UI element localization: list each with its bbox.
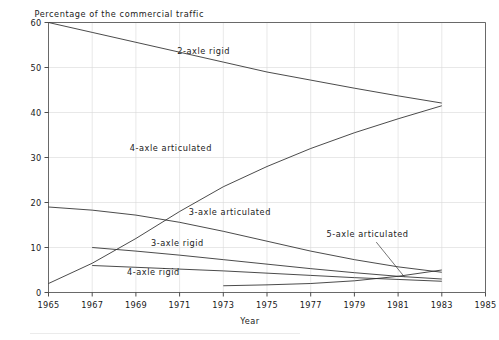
tickmarks-layer	[45, 23, 486, 297]
x-tick-label: 1967	[81, 300, 103, 310]
y-tick-label: 20	[30, 198, 41, 208]
series-line-2-axle-rigid	[49, 23, 442, 104]
axis-titles-layer: Percentage of the commercial trafficYear	[35, 9, 260, 326]
x-tick-label: 1979	[343, 300, 365, 310]
chart-page: 0102030405060196519671969197119731975197…	[0, 0, 499, 340]
series-label-4-axle-articulated: 4-axle articulated	[130, 143, 212, 153]
x-tick-label: 1975	[256, 300, 278, 310]
x-tick-label: 1971	[169, 300, 191, 310]
series-label-3-axle-rigid: 3-axle rigid	[151, 238, 204, 248]
y-tick-label: 10	[30, 243, 41, 253]
series-label-5-axle-articulated: 5-axle articulated	[326, 229, 408, 239]
y-tick-label: 40	[30, 108, 41, 118]
x-tick-label: 1973	[212, 300, 234, 310]
x-tick-label: 1977	[300, 300, 322, 310]
y-tick-label: 60	[30, 18, 41, 28]
gridlines-layer	[49, 23, 486, 293]
series-annotations-layer: 2-axle rigid4-axle articulated3-axle art…	[127, 46, 409, 277]
x-tick-label: 1983	[431, 300, 453, 310]
y-axis-title: Percentage of the commercial traffic	[35, 9, 204, 19]
x-tick-label: 1981	[387, 300, 409, 310]
x-axis-title: Year	[239, 316, 260, 326]
line-chart: 0102030405060196519671969197119731975197…	[0, 0, 499, 340]
series-line-4-axle-articulated	[49, 106, 442, 284]
series-label-3-axle-articulated: 3-axle articulated	[189, 207, 271, 217]
y-tick-label: 50	[30, 63, 41, 73]
x-tick-label: 1969	[125, 300, 147, 310]
series-label-2-axle-rigid: 2-axle rigid	[177, 46, 230, 56]
y-tick-label: 30	[30, 153, 41, 163]
x-tick-label: 1965	[37, 300, 59, 310]
y-tick-label: 0	[36, 288, 42, 298]
series-label-4-axle-rigid: 4-axle rigid	[127, 267, 180, 277]
x-tick-label: 1985	[474, 300, 496, 310]
series-lines-layer	[49, 23, 442, 286]
